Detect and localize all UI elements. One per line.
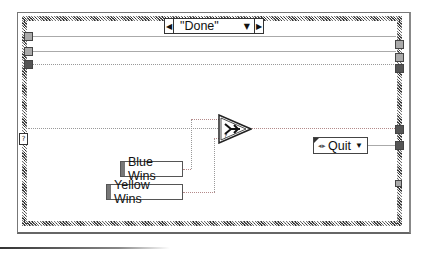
case-selector-value[interactable]: "Done" (174, 19, 244, 33)
quit-enum-constant[interactable]: ◂▸ Quit ▼ (313, 137, 368, 154)
tunnel-right-2[interactable] (395, 53, 404, 62)
window-bottom-edge (0, 247, 170, 249)
tunnel-right-result[interactable] (395, 125, 404, 134)
quit-value: Quit (328, 139, 351, 153)
select-function-icon[interactable]: ? (218, 114, 252, 144)
enum-corner-marker (314, 138, 319, 143)
yellow-wire-b[interactable] (214, 138, 215, 192)
next-case-icon[interactable]: ▶ (254, 19, 263, 33)
chevron-down-icon[interactable]: ▼ (244, 22, 254, 31)
case-selector-terminal[interactable]: ? (19, 133, 28, 145)
tunnel-right-quit[interactable] (395, 141, 404, 150)
blue-wire-a[interactable] (183, 169, 191, 170)
stop-terminal[interactable] (395, 180, 402, 187)
svg-text:?: ? (224, 132, 227, 139)
tunnel-left-3[interactable] (24, 60, 33, 69)
chevron-down-icon[interactable]: ▼ (351, 141, 363, 150)
blue-wire-c[interactable] (191, 119, 219, 120)
yellow-wins-constant[interactable]: Yellow Wins (106, 184, 183, 200)
tunnel-left-1[interactable] (24, 32, 33, 41)
wire-3[interactable] (30, 64, 396, 65)
boolean-wire[interactable] (28, 128, 228, 129)
prev-case-icon[interactable]: ◀ (165, 19, 174, 33)
tunnel-right-1[interactable] (395, 40, 404, 49)
wire-2[interactable] (30, 51, 396, 52)
blue-wire-b[interactable] (191, 119, 192, 169)
blue-wins-constant[interactable]: Blue Wins (120, 161, 183, 177)
yellow-wins-label: Yellow Wins (114, 178, 179, 206)
case-selector[interactable]: ◀ "Done" ▼ ▶ (164, 18, 264, 34)
tunnel-left-2[interactable] (24, 47, 33, 56)
tunnel-right-3[interactable] (395, 64, 404, 73)
result-wire[interactable] (252, 128, 395, 129)
wire-1[interactable] (30, 36, 396, 37)
yellow-wire-a[interactable] (183, 192, 215, 193)
quit-wire[interactable] (368, 145, 395, 146)
